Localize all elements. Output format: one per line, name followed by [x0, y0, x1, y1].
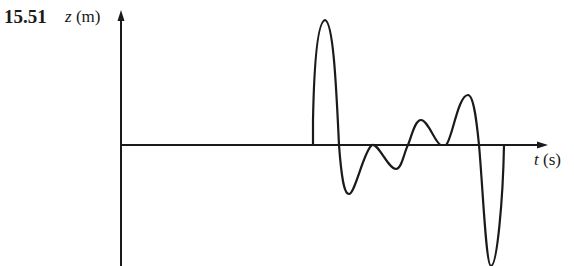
figure: 15.51 z (m) t (s) [0, 0, 574, 266]
y-axis-variable: z [65, 7, 72, 26]
wave-plot [0, 0, 574, 266]
x-axis-variable: t [534, 150, 539, 169]
figure-number: 15.51 [4, 6, 47, 28]
y-axis-label: z (m) [65, 7, 100, 27]
x-axis-unit: (s) [543, 150, 561, 169]
y-axis-arrow-icon [118, 10, 125, 21]
x-axis-label: t (s) [534, 150, 561, 170]
y-axis-unit: (m) [76, 7, 101, 26]
x-axis-arrow-icon [537, 142, 548, 149]
waveform-curve [313, 20, 504, 266]
